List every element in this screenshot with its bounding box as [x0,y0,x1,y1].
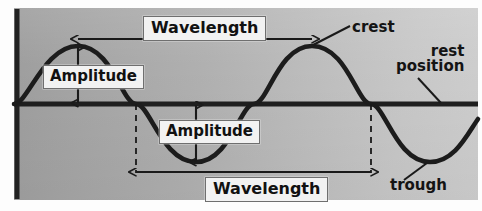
rest-position-leader-line [418,78,441,103]
rest-position-label-line2: position [396,59,464,74]
amplitude-bottom-label: Amplitude [159,120,260,144]
trough-label: trough [390,178,447,193]
wave-diagram: Wavelength Wavelength Amplitude Amplitud… [0,0,482,211]
rest-position-label: rest position [396,44,464,75]
wavelength-top-label: Wavelength [143,16,266,41]
wavelength-bottom-label: Wavelength [205,177,328,202]
amplitude-top-label: Amplitude [43,65,144,89]
crest-leader-line [313,26,350,45]
crest-label: crest [352,20,395,35]
